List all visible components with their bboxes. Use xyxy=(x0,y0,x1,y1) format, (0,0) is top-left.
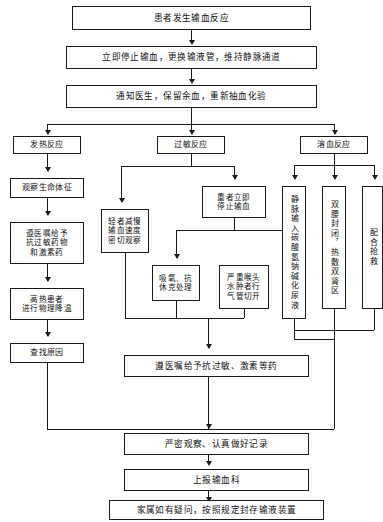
node-seal-infusion-device: 家属如有疑问，按照规定封存输液装置 xyxy=(109,500,324,520)
node-stop-transfusion: 立即停止输血，更换输液管，维持静脉通道 xyxy=(66,46,317,69)
node-tracheotomy: 严重喉头 水肿者行 气管切开 xyxy=(219,265,269,309)
connector-hemo-merge-upper xyxy=(294,330,374,331)
node-fever-reaction: 发热反应 xyxy=(13,136,81,154)
flowchart-canvas: 患者发生输血反应 立即停止输血，更换输液管，维持静脉通道 通知医生，保留余血，重… xyxy=(0,0,383,522)
connector-hemo-split-v xyxy=(334,154,335,165)
connector-oxygen-merge xyxy=(176,301,177,318)
connector-fever-to-record-h xyxy=(47,429,191,430)
node-hemolysis-reaction: 溶血反应 xyxy=(300,136,368,154)
connector-allergy-split-h xyxy=(121,166,234,167)
node-observe-vitals: 观察生命体征 xyxy=(10,178,84,198)
arrow-fever-4 xyxy=(45,332,51,337)
node-antiallergy-hormone: 遵医嘱给予 抗过敏药物 和激素药 xyxy=(10,222,84,264)
connector-fever-to-record-v xyxy=(47,363,48,429)
connector-allergy-split-v xyxy=(191,154,192,166)
arrow-fever-2 xyxy=(45,211,51,216)
arrow-hemo-1 xyxy=(292,175,298,180)
node-sodium-bicarbonate: 静脉输入碳酸氢钠碱化尿液 xyxy=(282,186,306,319)
arrow-drug-to-record xyxy=(206,424,212,429)
arrow-fever-3 xyxy=(45,277,51,282)
node-allergy-reaction: 过敏反应 xyxy=(157,136,225,154)
node-physical-cooling: 高热患者 进行物理降温 xyxy=(10,288,84,320)
connector-severe-split-v xyxy=(234,218,235,230)
arrow-severe-oxygen xyxy=(174,254,180,259)
arrow-allergy-mild xyxy=(119,198,125,203)
connector-severe-merge-h xyxy=(176,318,244,319)
node-notify-doctor: 通知医生，保留余血，重新抽血化验 xyxy=(66,85,317,108)
connector-step3-split xyxy=(191,108,192,124)
arrow-bus-hemolysis xyxy=(332,130,338,135)
arrow-record-report xyxy=(206,461,212,466)
connector-hemo-2-down xyxy=(334,309,335,339)
node-oxygen-antishock: 吸氧、抗 休克处理 xyxy=(152,265,200,301)
node-report-blood-bank: 上报输血科 xyxy=(124,469,309,491)
connector-mild-merge-h xyxy=(125,318,176,319)
node-close-observation-record: 严密观察、认真做好记录 xyxy=(124,433,309,455)
connector-hemo-to-record-h xyxy=(191,429,334,430)
arrow-bus-allergy xyxy=(189,130,195,135)
node-mild-slow-transfusion: 轻者减慢 输血速度 密切观察 xyxy=(101,209,149,253)
connector-hemo-to-record-v xyxy=(334,339,335,429)
arrow-step2-step3 xyxy=(189,79,195,84)
node-find-cause: 查找原因 xyxy=(10,343,84,363)
connector-allergy-mild xyxy=(121,166,122,202)
arrow-fever-1 xyxy=(45,167,51,172)
connector-severe-split-h xyxy=(176,230,292,231)
arrow-allergy-severe xyxy=(232,175,238,180)
node-assist-rescue: 配合抢救 xyxy=(362,186,383,309)
arrow-hemo-2 xyxy=(332,175,338,180)
arrow-allergy-to-drug xyxy=(206,344,212,349)
connector-hemo-1-down xyxy=(294,319,295,339)
node-severe-stop-transfusion: 重者立即 停止输血 xyxy=(202,186,266,218)
connector-drug-to-record xyxy=(208,377,209,429)
arrow-hemo-3 xyxy=(372,175,378,180)
node-merge-antiallergy-drug: 遵医嘱给予抗过敏、激素等药 xyxy=(124,355,309,377)
arrow-start-step2 xyxy=(189,40,195,45)
connector-hemo-merge-lower xyxy=(294,339,334,340)
connector-mild-down xyxy=(125,253,126,318)
node-lumbar-block-kidney-heat: 双腰封闭，热敷双肾区 xyxy=(322,186,346,309)
connector-hemo-3-down xyxy=(374,309,375,330)
node-start: 患者发生输血反应 xyxy=(72,6,311,30)
arrow-bus-fever xyxy=(45,130,51,135)
connector-trach-merge xyxy=(244,309,245,318)
